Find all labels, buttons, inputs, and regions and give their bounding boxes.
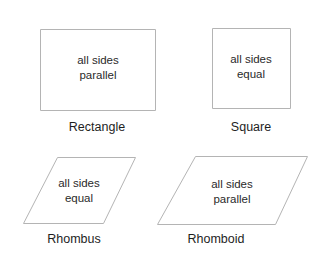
square-text-line1: all sides xyxy=(230,53,272,65)
rectangle-text-line1: all sides xyxy=(77,54,119,66)
rhomboid-shape xyxy=(158,157,308,225)
square-group: all sides equal Square xyxy=(213,29,291,135)
rhombus-label: Rhombus xyxy=(47,232,101,246)
rhombus-text-line1: all sides xyxy=(58,177,100,189)
square-label: Square xyxy=(231,120,271,134)
rhomboid-text-line2: parallel xyxy=(213,193,250,205)
rhomboid-label: Rhomboid xyxy=(188,232,245,246)
rhomboid-group: all sides parallel Rhomboid xyxy=(158,157,308,247)
rectangle-group: all sides parallel Rectangle xyxy=(41,30,156,135)
rhombus-text-line2: equal xyxy=(65,192,93,204)
quadrilaterals-diagram: all sides parallel Rectangle all sides e… xyxy=(0,0,328,266)
rhomboid-text-line1: all sides xyxy=(211,178,253,190)
square-text-line2: equal xyxy=(237,68,265,80)
rhombus-shape xyxy=(24,158,136,224)
rectangle-label: Rectangle xyxy=(69,120,125,134)
rhombus-group: all sides equal Rhombus xyxy=(24,158,136,247)
rectangle-text-line2: parallel xyxy=(79,69,116,81)
